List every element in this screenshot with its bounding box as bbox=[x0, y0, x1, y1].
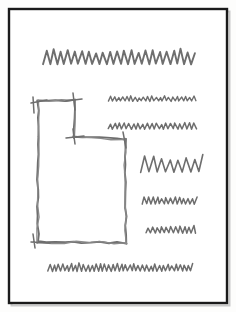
page-frame-group bbox=[9, 9, 230, 306]
wireframe-canvas: Hand drawn page layout wireframe bbox=[0, 0, 236, 312]
sketch-page: Hand drawn page layout wireframe hand-dr… bbox=[0, 0, 236, 312]
